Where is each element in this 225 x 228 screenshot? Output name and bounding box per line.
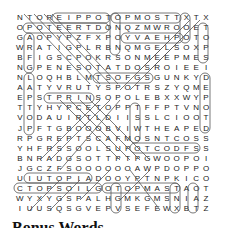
grid-cell[interactable]: O	[201, 164, 211, 174]
grid-cell[interactable]: P	[123, 13, 133, 23]
grid-cell[interactable]: T	[93, 103, 103, 113]
grid-cell[interactable]: S	[201, 144, 211, 154]
grid-cell[interactable]: S	[54, 53, 64, 63]
grid-cell[interactable]: P	[201, 43, 211, 53]
grid-cell[interactable]: Y	[54, 33, 64, 43]
grid-cell[interactable]: O	[113, 73, 123, 83]
grid-cell[interactable]: P	[74, 13, 84, 23]
grid-cell[interactable]: B	[182, 204, 192, 214]
grid-cell[interactable]: D	[201, 73, 211, 83]
grid-cell[interactable]: Q	[44, 73, 54, 83]
grid-cell[interactable]: E	[191, 124, 201, 134]
grid-cell[interactable]: T	[113, 63, 123, 73]
grid-cell[interactable]: P	[64, 134, 74, 144]
grid-cell[interactable]: S	[142, 73, 152, 83]
grid-cell[interactable]: L	[84, 184, 94, 194]
grid-cell[interactable]: T	[172, 184, 182, 194]
grid-cell[interactable]: O	[74, 164, 84, 174]
grid-cell[interactable]: O	[103, 164, 113, 174]
grid-cell[interactable]: C	[15, 184, 25, 194]
grid-cell[interactable]: S	[74, 154, 84, 164]
grid-cell[interactable]: Q	[123, 43, 133, 53]
grid-cell[interactable]: M	[123, 194, 133, 204]
grid-cell[interactable]: K	[172, 174, 182, 184]
grid-cell[interactable]: Q	[182, 83, 192, 93]
grid-cell[interactable]: P	[113, 154, 123, 164]
grid-cell[interactable]: G	[142, 194, 152, 204]
grid-cell[interactable]: U	[162, 73, 172, 83]
grid-cell[interactable]: I	[182, 194, 192, 204]
grid-cell[interactable]: O	[103, 23, 113, 33]
grid-cell[interactable]: I	[172, 113, 182, 123]
grid-cell[interactable]: P	[201, 93, 211, 103]
grid-cell[interactable]: F	[35, 144, 45, 154]
grid-cell[interactable]: S	[152, 83, 162, 93]
grid-cell[interactable]: T	[25, 13, 35, 23]
grid-cell[interactable]: T	[133, 103, 143, 113]
grid-cell[interactable]: T	[93, 154, 103, 164]
grid-cell[interactable]: P	[64, 33, 74, 43]
grid-cell[interactable]: D	[93, 23, 103, 33]
grid-cell[interactable]: T	[162, 134, 172, 144]
grid-cell[interactable]: G	[142, 43, 152, 53]
grid-cell[interactable]: U	[54, 113, 64, 123]
grid-cell[interactable]: R	[25, 43, 35, 53]
grid-cell[interactable]: K	[93, 53, 103, 63]
grid-cell[interactable]: T	[142, 144, 152, 154]
grid-cell[interactable]: V	[113, 204, 123, 214]
grid-cell[interactable]: T	[44, 174, 54, 184]
grid-cell[interactable]: C	[35, 164, 45, 174]
grid-cell[interactable]: Z	[162, 83, 172, 93]
grid-cell[interactable]: K	[182, 73, 192, 83]
grid-cell[interactable]: A	[15, 83, 25, 93]
grid-cell[interactable]: I	[123, 113, 133, 123]
grid-cell[interactable]: I	[74, 184, 84, 194]
grid-cell[interactable]: T	[191, 13, 201, 23]
grid-cell[interactable]: I	[64, 113, 74, 123]
grid-cell[interactable]: G	[64, 43, 74, 53]
grid-cell[interactable]: M	[142, 23, 152, 33]
grid-cell[interactable]: K	[133, 194, 143, 204]
grid-cell[interactable]: U	[25, 204, 35, 214]
grid-cell[interactable]: R	[64, 93, 74, 103]
grid-cell[interactable]: U	[35, 204, 45, 214]
grid-cell[interactable]: P	[182, 164, 192, 174]
grid-cell[interactable]: S	[103, 83, 113, 93]
grid-cell[interactable]: S	[142, 134, 152, 144]
grid-cell[interactable]: W	[142, 164, 152, 174]
grid-cell[interactable]: R	[162, 23, 172, 33]
grid-cell[interactable]: S	[152, 13, 162, 23]
grid-cell[interactable]: G	[64, 154, 74, 164]
grid-cell[interactable]: Y	[172, 83, 182, 93]
grid-cell[interactable]: T	[113, 184, 123, 194]
grid-cell[interactable]: N	[152, 134, 162, 144]
grid-cell[interactable]: F	[84, 33, 94, 43]
grid-cell[interactable]: M	[142, 184, 152, 194]
grid-cell[interactable]: O	[93, 164, 103, 174]
grid-cell[interactable]: B	[152, 93, 162, 103]
grid-cell[interactable]: F	[142, 103, 152, 113]
grid-cell[interactable]: P	[133, 184, 143, 194]
grid-cell[interactable]: I	[113, 113, 123, 123]
grid-cell[interactable]: P	[133, 174, 143, 184]
grid-cell[interactable]: T	[172, 103, 182, 113]
grid-cell[interactable]: A	[103, 63, 113, 73]
grid-cell[interactable]: L	[162, 43, 172, 53]
grid-cell[interactable]: T	[44, 43, 54, 53]
grid-cell[interactable]: Q	[54, 204, 64, 214]
grid-cell[interactable]: S	[103, 73, 113, 83]
grid-cell[interactable]: E	[84, 103, 94, 113]
grid-cell[interactable]: E	[162, 124, 172, 134]
grid-cell[interactable]: I	[35, 53, 45, 63]
grid-cell[interactable]: A	[35, 43, 45, 53]
grid-cell[interactable]: L	[74, 73, 84, 83]
grid-cell[interactable]: T	[162, 13, 172, 23]
grid-cell[interactable]: G	[25, 164, 35, 174]
grid-cell[interactable]: P	[74, 194, 84, 204]
grid-cell[interactable]: B	[64, 73, 74, 83]
grid-cell[interactable]: L	[133, 93, 143, 103]
grid-cell[interactable]: P	[84, 13, 94, 23]
grid-cell[interactable]: G	[133, 73, 143, 83]
grid-cell[interactable]: N	[152, 174, 162, 184]
grid-cell[interactable]: E	[54, 134, 64, 144]
